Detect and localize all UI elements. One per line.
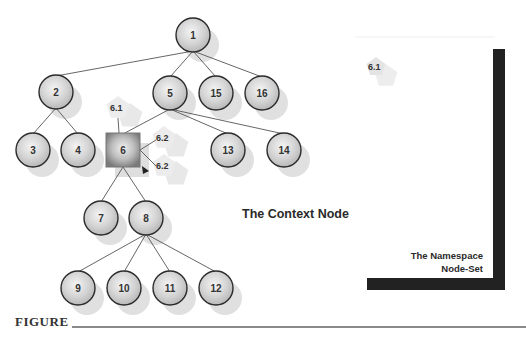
node-label: 8 [143,213,149,224]
context-node-caption: The Context Node [242,207,349,221]
node-label: 16 [256,88,268,99]
node-label: 7 [98,213,104,224]
namespace-title-line1: The Namespace [411,249,483,262]
tree-node-1: 1 [176,18,210,52]
node-label: 14 [278,145,290,156]
node-label: 2 [53,87,59,98]
panel-right-bar [493,49,505,290]
tree-node-7: 7 [84,201,118,235]
tree-node-16: 16 [245,76,279,110]
namespace-title-line2: Node-Set [411,262,483,275]
tree-node-2: 2 [39,75,73,109]
node-label: 10 [118,283,130,294]
node-label: 4 [75,145,81,156]
tree-node-8: 8 [129,201,163,235]
tree-node-4: 4 [61,133,95,167]
tree-node-9: 9 [61,271,95,305]
tree-node-11: 11 [153,271,187,305]
tree-edge [146,234,216,272]
tree-node-15: 15 [199,76,233,110]
tree-edge [193,51,262,77]
node-label: 1 [190,30,196,41]
node-label: 11 [165,283,176,294]
namespace-node-label: 6.1 [110,103,123,113]
tree-node-6: 6 [106,133,140,167]
node-label: 9 [75,283,81,294]
tree-node-12: 12 [199,271,233,305]
namespace-edge [118,118,119,133]
namespace-node-label: 6.2 [156,161,169,171]
tree-node-10: 10 [107,271,141,305]
node-tree: 6.1 125151634613147891011126.16.26.2 [0,0,526,338]
tree-node-5: 5 [153,76,187,110]
diagram-stage: 6.1 125151634613147891011126.16.26.2 The… [0,0,526,338]
figure-label: FIGURE [15,314,69,330]
figure-rule [72,326,526,328]
node-label: 12 [210,283,222,294]
namespace-panel-title: The Namespace Node-Set [411,249,483,275]
tree-node-14: 14 [267,133,301,167]
tree-edge [56,51,193,76]
panel-bottom-bar [367,278,505,290]
node-label: 15 [210,88,222,99]
node-label: 5 [167,88,173,99]
node-label: 3 [30,145,36,156]
node-label: 6 [120,145,126,156]
namespace-member-label: 6.1 [368,62,381,72]
namespace-node-label: 6.2 [156,133,169,143]
tree-edge [101,167,123,202]
tree-node-13: 13 [211,133,245,167]
tree-edge [33,108,56,134]
tree-node-3: 3 [16,133,50,167]
node-label: 13 [222,145,234,156]
